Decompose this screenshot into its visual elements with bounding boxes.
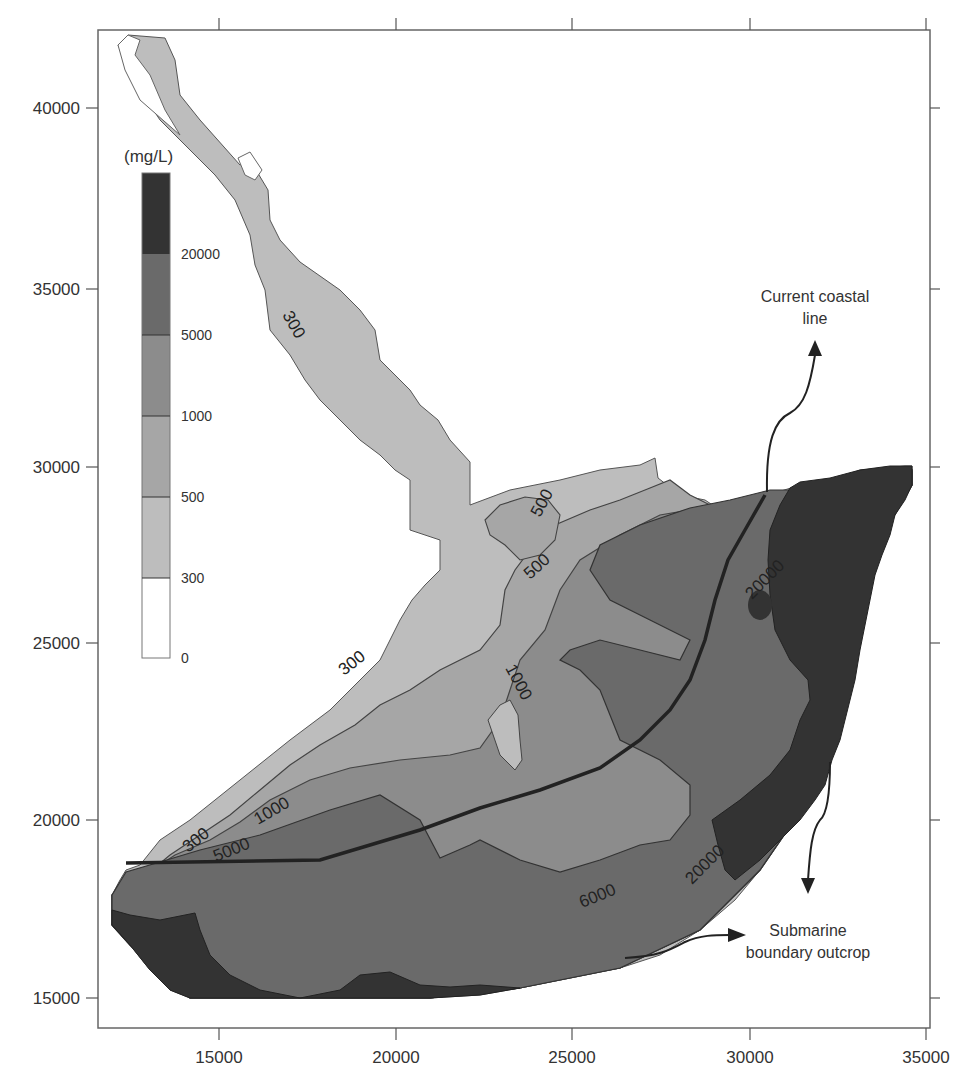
colorbar-label: 300 — [181, 570, 205, 586]
colorbar-band-20000plus — [142, 173, 170, 254]
x-tick-label: 30000 — [726, 1048, 773, 1067]
colorbar-label: 5000 — [181, 327, 212, 343]
x-tick-labels: 15000 20000 25000 30000 35000 — [195, 1048, 949, 1067]
contour-label-300: 300 — [335, 647, 369, 679]
y-tick-label: 35000 — [33, 280, 80, 299]
arrowhead-up-icon — [808, 340, 822, 356]
y-tick-label: 40000 — [33, 99, 80, 118]
arrow-coastal — [767, 355, 815, 492]
annotation-coastal: Current coastal line — [761, 288, 870, 492]
colorbar: (mg/L) 20000 5000 1000 500 300 0 — [124, 147, 220, 666]
x-tick-label: 25000 — [548, 1048, 595, 1067]
colorbar-band-300 — [142, 497, 170, 578]
colorbar-unit: (mg/L) — [124, 147, 173, 166]
colorbar-band-5000 — [142, 254, 170, 335]
x-tick-label: 20000 — [372, 1048, 419, 1067]
annotation-submarine-line2: boundary outcrop — [746, 944, 871, 961]
colorbar-label: 1000 — [181, 408, 212, 424]
y-tick-label: 20000 — [33, 811, 80, 830]
annotation-coastal-line2: line — [803, 310, 828, 327]
y-tick-label: 15000 — [33, 989, 80, 1008]
colorbar-label: 500 — [181, 489, 205, 505]
colorbar-label: 0 — [181, 650, 189, 666]
annotation-submarine-line1: Submarine — [769, 922, 846, 939]
colorbar-band-0 — [142, 578, 170, 658]
y-tick-label: 30000 — [33, 458, 80, 477]
y-tick-label: 25000 — [33, 634, 80, 653]
arrowhead-down-icon — [801, 878, 815, 894]
x-tick-label: 35000 — [902, 1048, 949, 1067]
annotation-coastal-line1: Current coastal — [761, 288, 870, 305]
colorbar-band-1000 — [142, 335, 170, 416]
colorbar-band-500 — [142, 416, 170, 497]
arrowhead-right-icon — [728, 928, 746, 942]
x-tick-label: 15000 — [195, 1048, 242, 1067]
y-tick-labels: 40000 35000 30000 25000 20000 15000 — [33, 99, 80, 1008]
colorbar-label: 20000 — [181, 246, 220, 262]
contour-chart: 300 300 300 500 500 1000 1000 5000 6000 … — [0, 0, 969, 1072]
